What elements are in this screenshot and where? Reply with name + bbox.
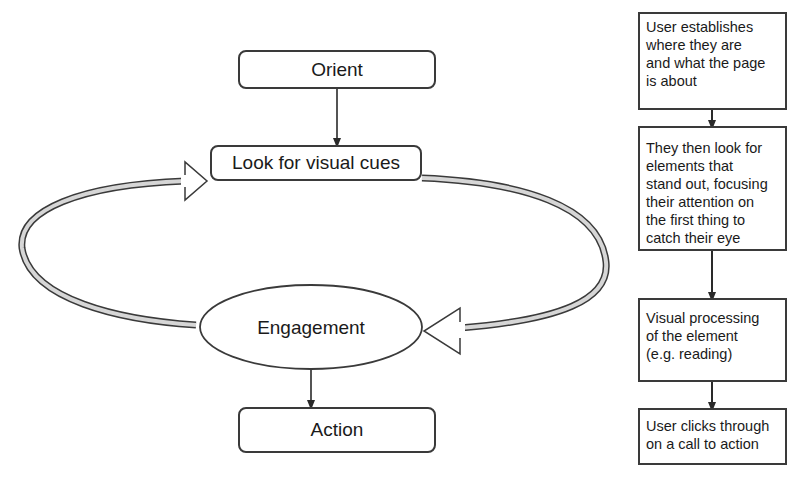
step-action-description: User clicks through on a call to action bbox=[638, 408, 787, 465]
node-engagement-label: Engagement bbox=[257, 317, 365, 339]
node-orient: Orient bbox=[238, 50, 436, 89]
node-action: Action bbox=[238, 407, 436, 453]
node-orient-label: Orient bbox=[311, 59, 363, 81]
node-engagement: Engagement bbox=[200, 285, 422, 370]
loop-arrow-right bbox=[422, 178, 606, 354]
node-look-for-visual-cues: Look for visual cues bbox=[210, 145, 422, 181]
node-look-label: Look for visual cues bbox=[232, 152, 400, 174]
step-orient-description: User establishes where they are and what… bbox=[638, 12, 787, 110]
step-engagement-description: Visual processing of the element (e.g. r… bbox=[638, 298, 787, 382]
node-action-label: Action bbox=[311, 419, 364, 441]
loop-arrow-left bbox=[22, 162, 207, 325]
step-look-description: They then look for elements that stand o… bbox=[638, 126, 787, 251]
